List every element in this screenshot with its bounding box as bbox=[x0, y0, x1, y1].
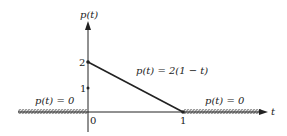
formula-middle: p(t) = 2(1 − t) bbox=[136, 65, 208, 76]
x-tick-1: 1 bbox=[180, 115, 186, 126]
x-tick-0: 0 bbox=[90, 115, 96, 126]
y-tick-1: 1 bbox=[80, 83, 86, 94]
point-y2 bbox=[86, 60, 90, 64]
probability-density-diagram: p(t) t 2 1 0 1 p(t) = 2(1 − t) p(t) = 0 … bbox=[0, 0, 287, 136]
y-tick-2: 2 bbox=[79, 57, 85, 68]
point-x1 bbox=[181, 110, 185, 114]
point-y1 bbox=[87, 87, 90, 90]
x-axis-arrow-icon bbox=[259, 109, 268, 115]
y-axis-label: p(t) bbox=[80, 9, 98, 20]
x-axis-label: t bbox=[271, 106, 276, 117]
formula-right: p(t) = 0 bbox=[205, 95, 245, 106]
y-axis-arrow-icon bbox=[85, 21, 91, 30]
formula-left: p(t) = 0 bbox=[35, 95, 75, 106]
